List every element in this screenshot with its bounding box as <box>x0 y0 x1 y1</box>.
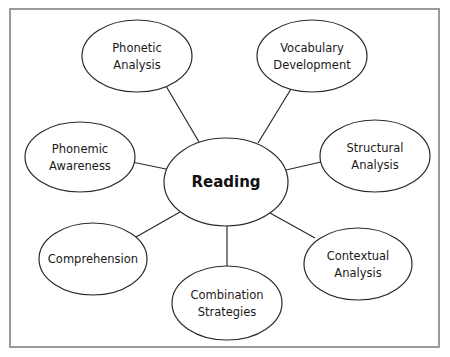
node-ellipse <box>25 122 135 192</box>
node-label: Phonemic <box>52 142 108 156</box>
node-label: Combination <box>190 288 263 302</box>
center-node-reading: Reading <box>164 138 288 226</box>
node-ellipse <box>320 120 430 192</box>
node-ellipse <box>82 20 192 92</box>
node-label: Analysis <box>351 158 398 172</box>
connector-line-phonetic <box>166 86 199 142</box>
reading-concept-map: PhoneticAnalysisVocabularyDevelopmentPho… <box>0 0 450 357</box>
connector-line-structural <box>286 162 321 170</box>
node-label: Strategies <box>198 305 257 319</box>
node-label: Awareness <box>49 159 111 173</box>
node-label: Contextual <box>327 249 390 263</box>
node-label: Structural <box>347 141 404 155</box>
center-label: Reading <box>191 173 260 191</box>
node-phonemic: PhonemicAwareness <box>25 122 135 192</box>
node-label: Phonetic <box>112 41 162 55</box>
node-label: Vocabulary <box>280 41 344 55</box>
node-label: Analysis <box>113 58 160 72</box>
node-combination: CombinationStrategies <box>172 266 282 340</box>
node-structural: StructuralAnalysis <box>320 120 430 192</box>
node-label: Development <box>273 58 351 72</box>
connector-line-vocabulary <box>258 89 291 143</box>
connector-line-contextual <box>270 213 315 238</box>
connector-line-phonemic <box>132 162 166 169</box>
node-ellipse <box>257 20 367 92</box>
node-vocabulary: VocabularyDevelopment <box>257 20 367 92</box>
node-label: Comprehension <box>48 252 138 266</box>
node-comprehension: Comprehension <box>39 223 147 295</box>
node-label: Analysis <box>334 266 381 280</box>
node-phonetic: PhoneticAnalysis <box>82 20 192 92</box>
node-ellipse <box>172 266 282 340</box>
node-contextual: ContextualAnalysis <box>304 228 412 300</box>
connector-line-comprehension <box>136 212 180 237</box>
node-ellipse <box>304 228 412 300</box>
